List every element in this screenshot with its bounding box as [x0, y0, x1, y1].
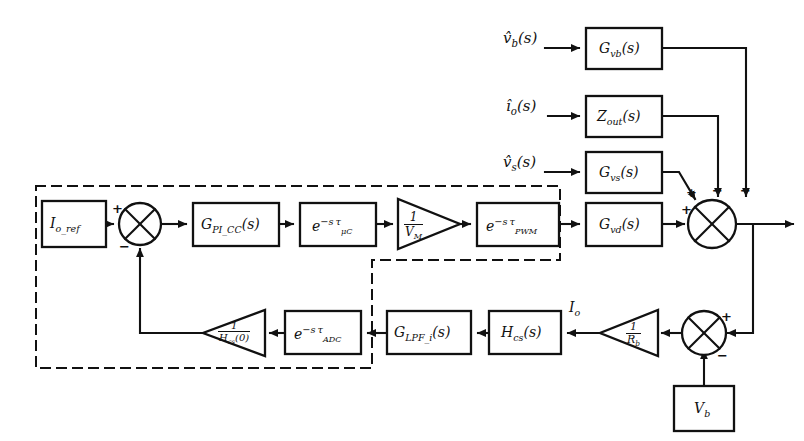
wire-hcsgain-to-inputsum — [140, 249, 203, 333]
sign-minus-gvb-sum: − — [740, 184, 751, 197]
summing-junction-output-shape — [688, 200, 736, 248]
diagram-svg — [0, 0, 804, 441]
io-input-label: îo(s) — [506, 99, 536, 117]
sign-plus-gvs-sum: + — [686, 186, 697, 199]
block-vb-label: Vb — [694, 401, 710, 418]
wire-gvb-to-sumout — [662, 48, 746, 196]
sign-plus-bottom-sum: + — [721, 310, 732, 323]
block-delay-uc-label: e−s τμC — [312, 217, 352, 236]
block-diagram-canvas: v̂b(s) îo(s) v̂s(s) Io_ref GPI_CC(s) e−s… — [0, 0, 804, 441]
block-delay-pwm-label: e−s τPWM — [486, 217, 537, 236]
block-gpi-cc-label: GPI_CC(s) — [201, 217, 260, 234]
block-hcs-label: Hcs(s) — [501, 325, 542, 342]
gain-1-over-hcs0-label: 1Hcs(0) — [218, 320, 250, 346]
block-gvd-label: Gvd(s) — [599, 217, 640, 234]
block-delay-adc-label: e−s τADC — [294, 325, 342, 344]
sign-plus-gvd-sum: + — [681, 203, 692, 216]
sign-minus-bottom-sum: − — [717, 349, 728, 362]
sign-minus-input-sum: − — [119, 240, 130, 253]
wire-zout-to-sumout — [662, 116, 718, 196]
sign-minus-zout-sum: − — [712, 184, 723, 197]
gain-1-over-vm-label: 1VM — [404, 211, 423, 242]
block-zout-label: Zout(s) — [597, 109, 641, 126]
block-glpf-i-label: GLPF_i(s) — [394, 325, 450, 342]
io-signal-label: Io — [569, 300, 580, 317]
vs-input-label: v̂s(s) — [503, 155, 536, 173]
gain-1-over-rb-label: 1Rb — [626, 321, 641, 349]
sign-plus-input-sum: + — [112, 202, 123, 215]
block-gvs-label: Gvs(s) — [599, 165, 639, 182]
block-gvb-label: Gvb(s) — [599, 41, 640, 58]
block-io-ref-label: Io_ref — [50, 216, 80, 233]
vb-input-label: v̂b(s) — [503, 31, 537, 49]
